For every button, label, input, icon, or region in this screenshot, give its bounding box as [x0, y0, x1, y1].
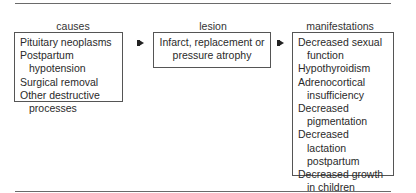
- cause-item: Pituitary neoplasms: [20, 36, 117, 49]
- lesion-box: Infarct, replacement or pressure atrophy: [153, 32, 271, 68]
- manifestation-item: Decreased growth in children: [298, 168, 393, 193]
- manifestation-item: Decreased lactation postpartum: [298, 128, 387, 168]
- arrow-right-icon: [139, 40, 144, 46]
- manifestations-title: manifestations: [280, 20, 400, 32]
- cause-item: Surgical removal: [20, 76, 117, 89]
- manifestations-box: Decreased sexual function Hypothyroidism…: [292, 32, 394, 176]
- manifestation-item: Decreased sexual function: [298, 36, 388, 62]
- lesion-item: Infarct, replacement or pressure atrophy: [159, 36, 265, 62]
- causes-box: Pituitary neoplasms Postpartum hypotensi…: [14, 32, 123, 102]
- cause-item: Other destructive processes: [20, 89, 109, 115]
- bottom-rule: [15, 191, 391, 192]
- arrow-right-icon: [279, 40, 284, 46]
- causes-title: causes: [15, 20, 131, 32]
- lesion-title: lesion: [153, 20, 273, 32]
- manifestation-item: Decreased pigmentation: [298, 102, 367, 128]
- manifestation-item: Hypothyroidism: [298, 62, 388, 75]
- cause-item: Postpartum hypotension: [20, 49, 117, 75]
- manifestation-item: Adrenocortical insufficiency: [298, 76, 388, 102]
- top-rule: [15, 3, 391, 4]
